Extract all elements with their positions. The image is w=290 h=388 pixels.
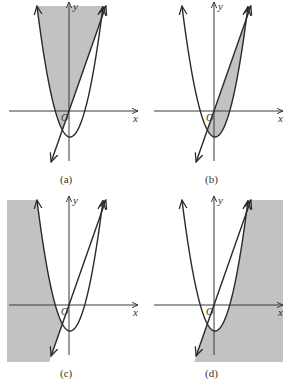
panel-d: xyO(d) [154,194,283,380]
caption-c: (c) [60,367,73,380]
figure: xyO(a) xyO(b) xyO(c) xyO(d) [0,0,290,388]
line [51,200,106,356]
origin-label: O [206,112,213,123]
caption-a: (a) [60,173,73,186]
y-axis-label: y [72,194,78,206]
y-axis-label: y [217,0,223,12]
panel-c: xyO(c) [7,194,138,380]
x-axis-label: x [132,306,138,318]
shaded-region [7,200,106,362]
y-axis-label: y [72,0,78,12]
origin-label: O [206,306,213,317]
panel-a: xyO(a) [9,0,138,186]
x-axis-label: x [277,306,283,318]
caption-d: (d) [205,367,218,380]
x-axis-label: x [132,112,138,124]
shaded-region [194,200,283,362]
caption-b: (b) [205,173,218,186]
line [196,6,251,162]
x-axis-label: x [277,112,283,124]
origin-label: O [61,306,68,317]
y-axis-label: y [217,194,223,206]
panel-b: xyO(b) [154,0,283,186]
origin-label: O [61,112,68,123]
